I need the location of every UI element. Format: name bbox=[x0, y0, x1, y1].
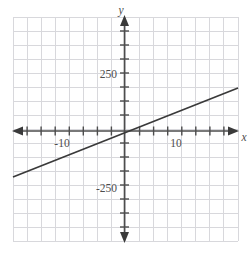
x-axis-negative-tick-label: -10 bbox=[54, 137, 70, 149]
x-axis-positive-tick-label: 10 bbox=[170, 137, 182, 149]
y-axis-positive-tick-label: 250 bbox=[100, 68, 118, 80]
graph-canvas: 250 -250 -10 10 y x bbox=[0, 0, 251, 254]
y-axis-negative-tick-label: -250 bbox=[96, 182, 117, 194]
y-axis-label: y bbox=[117, 4, 124, 17]
coordinate-plane-graph: 250 -250 -10 10 y x bbox=[0, 0, 251, 254]
x-axis-label: x bbox=[240, 131, 247, 143]
